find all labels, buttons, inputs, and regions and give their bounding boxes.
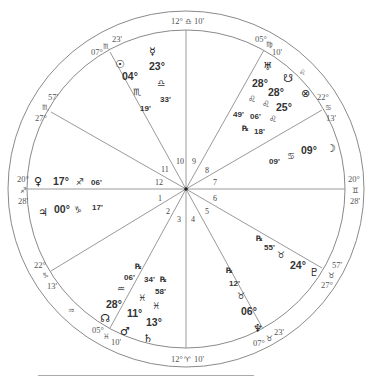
pluto-degree: 24° [290,259,306,271]
asc-minutes: 28' [18,196,29,206]
cusp-11-sign-scorpio-icon: ♏ [103,42,110,51]
saturn-minutes: 58' [155,287,166,296]
dsc-minutes: 28' [350,196,361,206]
part-of-fortune-degree: 25° [276,101,292,113]
sun-sign-scorpio-icon: ♏ [133,87,141,97]
south-node-icon: ☋ [283,72,293,85]
uranus-icon: ♅ [263,60,273,73]
mercury-icon: ☿ [149,45,156,58]
part-of-fortune-minutes: 18' [254,127,265,136]
house-number-2: 2 [166,207,170,216]
planet-uranus[interactable]: ♅ 28° ♌ 49' ℞ [233,60,273,133]
cusp-12-sign-scorpio-icon: ♏ [42,103,49,112]
center-dot [184,187,188,191]
north-node-retrograde-icon: ℞ [135,262,142,271]
mercury-degree: 23° [149,60,165,72]
planet-venus[interactable]: ♀ 17° ♐ 06' [34,175,102,188]
house-number-12: 12 [155,178,163,187]
cusp-labels: 12° ♎ 10' 12° ♈ 10' 07° ♏ 23' 57' ♏ 27° … [17,16,361,364]
cusp-12-minutes: 57' [48,92,59,102]
moon-degree: 09° [301,144,317,156]
part-of-fortune-sign-leo-icon: ♌ [269,114,277,124]
venus-degree: 17° [53,175,69,187]
cusp-9-minutes: 10' [272,47,283,57]
mc-minutes: 10' [194,16,205,26]
house-number-10: 10 [176,157,184,166]
jupiter-minutes: 17' [92,203,103,212]
cusp-2-degree: 22° [34,260,46,270]
cusp-5-minutes: 23' [274,327,285,337]
planet-jupiter[interactable]: ♃ 00° ♑ 17' [38,203,103,219]
mars-degree: 11° [127,307,142,319]
cusp-8-minutes: 13' [326,113,337,123]
sun-minutes: 19' [140,104,151,113]
asc-degree: 20° [17,174,29,184]
asc-sign-sagittarius-icon: ♐ [20,186,27,195]
house-number-11: 11 [161,165,169,174]
dsc-sign-gemini-icon: ♊ [352,186,359,195]
astrology-chart-wheel: 10 9 8 7 11 12 1 2 3 4 5 6 12° ♎ 10' 12°… [0,0,369,378]
moon-minutes: 09' [269,157,280,166]
jupiter-degree: 00° [54,203,70,215]
planet-moon[interactable]: ☽ 09° ♋ 09' [269,142,336,166]
mercury-minutes: 33' [160,95,171,104]
house-number-5: 5 [205,207,209,216]
cusp-2-sign-capricorn-icon: ♑ [42,271,49,280]
planet-mercury[interactable]: ☿ 23° ♎ 33' [149,45,171,104]
saturn-sign-pisces-icon: ♓ [152,301,160,311]
uranus-degree: 28° [252,77,268,89]
mars-retrograde-icon: ℞ [160,275,167,284]
planet-neptune[interactable]: ♆ 06° ♉ 12' ℞ [226,266,263,335]
neptune-minutes: 12' [229,279,240,288]
saturn-degree: 13° [146,316,162,328]
mercury-sign-libra-icon: ♎ [157,78,165,88]
jupiter-sign-capricorn-icon: ♑ [74,205,82,215]
ic-minutes: 10' [194,354,205,364]
saturn-icon: ♄ [143,332,153,345]
planet-pluto[interactable]: ♇ 24° ♉ 55' ℞ [256,234,319,279]
mc-sign-libra-icon: ♎ [185,17,192,26]
neptune-icon: ♆ [253,322,263,335]
house-number-9: 9 [192,157,196,166]
bottom-divider [38,375,254,376]
mars-icon: ♂ [120,325,130,338]
cusp-12-degree: 27° [35,113,47,123]
house-number-6: 6 [213,194,217,203]
house-number-4: 4 [191,215,195,224]
sun-degree: 04° [122,70,138,82]
cusp-5-sign-taurus-icon: ♉ [266,334,273,343]
house-number-7: 7 [213,178,217,187]
moon-icon: ☽ [326,142,336,155]
pluto-minutes: 55' [264,243,275,252]
house-number-8: 8 [205,166,209,175]
north-node-icon: ☊ [100,312,110,325]
cusp-3-minutes: 10' [111,337,122,347]
mc-degree: 12° [171,16,183,26]
cusp-11-minutes: 23' [112,34,123,44]
venus-icon: ♀ [34,175,42,188]
venus-minutes: 06' [91,178,102,187]
dsc-degree: 20° [348,174,360,184]
moon-sign-cancer-icon: ♋ [287,151,295,161]
planet-sun[interactable]: ☉ 04° ♏ 19' [115,58,151,113]
uranus-sign-leo-icon: ♌ [248,94,256,104]
cusp-8-degree: 22° [317,92,329,102]
cusp-6-line [186,189,322,268]
cusp-6-degree: 27° [321,280,333,290]
planet-saturn[interactable]: ♄ 13° ♓ 58' [143,287,166,345]
intercepted-sign-aquarius-icon: ♒ [68,306,75,315]
south-node-degree: 28° [268,86,284,98]
neptune-sign-taurus-icon: ♉ [237,291,245,301]
mars-sign-pisces-icon: ♓ [138,293,146,303]
cusp-11-degree: 07° [91,47,103,57]
neptune-degree: 06° [241,305,257,317]
cusp-2-line [51,189,186,271]
pluto-retrograde-icon: ℞ [256,234,263,243]
north-node-minutes: 06' [124,273,135,282]
cusp-6-sign-taurus-icon: ♉ [328,271,335,280]
cusp-12-line [51,112,186,189]
ic-sign-aries-icon: ♈ [184,355,191,364]
pluto-icon: ♇ [309,266,319,279]
uranus-retrograde-icon: ℞ [242,124,249,133]
cusp-3-sign-pisces-icon: ♓ [103,332,110,341]
